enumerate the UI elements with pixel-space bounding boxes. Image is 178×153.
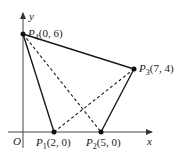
diagonal-p4-p2	[23, 34, 101, 132]
point-p2	[99, 130, 104, 135]
point-p4	[21, 32, 26, 37]
edge-p4-p3	[23, 34, 134, 69]
y-axis-label: y	[28, 10, 34, 22]
label-p3: P3(7, 4)	[138, 62, 174, 77]
point-p3	[132, 67, 137, 72]
point-p1	[52, 130, 57, 135]
label-p1: P1(2, 0)	[35, 136, 71, 151]
edge-p4-p1	[23, 34, 54, 132]
origin-label: O	[13, 135, 21, 147]
label-p4: P4(0, 6)	[27, 27, 63, 42]
quadrilateral-diagram: y x O P4(0, 6) P3(7, 4) P1(2, 0) P2(5, 0…	[0, 0, 178, 153]
edge-p3-p2	[101, 69, 134, 132]
label-p2: P2(5, 0)	[85, 136, 121, 151]
diagonal-p1-p3	[54, 69, 134, 132]
x-axis-label: x	[146, 135, 152, 147]
